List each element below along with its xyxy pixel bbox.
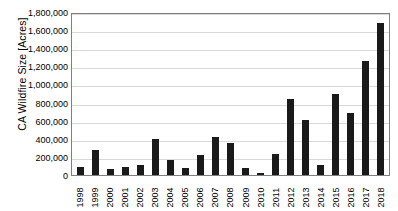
bar-slot [268,14,283,175]
x-tick-slot: 2002 [132,177,147,211]
x-axis-tick-labels: 1998199920002001200220032004200520062007… [71,177,390,211]
bar[interactable] [302,120,310,175]
bar[interactable] [152,139,160,175]
bar[interactable] [272,154,280,175]
x-tick-slot: 2008 [223,177,238,211]
x-tick-label: 2011 [271,188,280,207]
x-tick-slot: 2014 [314,177,329,211]
bar[interactable] [212,137,220,175]
bar[interactable] [332,94,340,175]
x-tick-label: 2003 [151,187,160,207]
x-tick-label: 2015 [332,187,341,207]
x-tick-label: 2002 [135,187,144,207]
bar-slot [208,14,223,175]
x-tick-slot: 2017 [359,177,374,211]
x-tick-slot: 2009 [238,177,253,211]
wildfire-bar-chart: CA Wildfire Size [Acres] 1,800,0001,600,… [0,0,398,211]
x-tick-label: 2013 [301,187,310,207]
x-tick-label: 2000 [105,187,114,207]
bar-slot [238,14,253,175]
x-tick-slot: 2018 [374,177,389,211]
bar[interactable] [137,165,145,175]
bar-slot [313,14,328,175]
bar[interactable] [317,165,325,175]
y-tick-label: 800,000 [14,99,68,108]
bar[interactable] [377,23,385,175]
x-tick-slot: 2004 [163,177,178,211]
bar-slot [298,14,313,175]
bar[interactable] [362,61,370,175]
x-tick-slot: 2012 [283,177,298,211]
x-tick-label: 2017 [362,187,371,207]
y-tick-label: 1,000,000 [14,81,68,90]
x-tick-label: 2012 [286,187,295,207]
bar-slot [283,14,298,175]
x-tick-label: 2018 [377,187,386,207]
bar-slot [223,14,238,175]
bar[interactable] [227,143,235,175]
x-tick-label: 2001 [120,187,129,207]
x-tick-slot: 2005 [178,177,193,211]
y-axis-tick-labels: 1,800,0001,600,0001,400,0001,200,0001,00… [14,13,68,176]
x-tick-label: 2009 [241,187,250,207]
bar[interactable] [167,160,175,175]
x-tick-label: 1998 [75,187,84,207]
bar-slot [88,14,103,175]
x-tick-label: 2014 [317,187,326,207]
x-tick-label: 2004 [166,187,175,207]
x-tick-label: 2006 [196,187,205,207]
bar[interactable] [182,168,190,175]
bar-slot [103,14,118,175]
x-tick-slot: 2006 [193,177,208,211]
x-tick-label: 1999 [90,187,99,207]
x-tick-slot: 2001 [117,177,132,211]
x-tick-slot: 2003 [147,177,162,211]
x-tick-slot: 2011 [268,177,283,211]
x-tick-label: 2010 [256,187,265,207]
plot-area [71,13,390,176]
x-tick-slot: 2016 [344,177,359,211]
y-tick-label: 1,200,000 [14,63,68,72]
bar-slot [358,14,373,175]
bar[interactable] [347,113,355,175]
bars-series [72,14,389,175]
y-tick-label: 600,000 [14,117,68,126]
bar-slot [178,14,193,175]
bar[interactable] [77,167,85,175]
x-tick-slot: 2007 [208,177,223,211]
bar-slot [133,14,148,175]
bar[interactable] [197,155,205,175]
bar-slot [73,14,88,175]
x-tick-slot: 2000 [102,177,117,211]
y-tick-label: 0 [14,172,68,181]
y-tick-label: 1,400,000 [14,45,68,54]
x-tick-label: 2005 [181,187,190,207]
bar-slot [118,14,133,175]
y-tick-label: 1,800,000 [14,9,68,18]
bar-slot [253,14,268,175]
x-tick-slot: 1999 [87,177,102,211]
x-tick-label: 2008 [226,187,235,207]
bar[interactable] [122,167,130,175]
y-tick-label: 400,000 [14,135,68,144]
bar-slot [343,14,358,175]
x-tick-slot: 2010 [253,177,268,211]
bar-slot [148,14,163,175]
bar-slot [163,14,178,175]
bar[interactable] [92,150,100,175]
bar[interactable] [242,168,250,175]
x-tick-slot: 2013 [298,177,313,211]
bar-slot [193,14,208,175]
x-tick-label: 2007 [211,187,220,207]
x-tick-slot: 2015 [329,177,344,211]
bar-slot [373,14,388,175]
bar[interactable] [257,173,265,175]
y-tick-label: 200,000 [14,153,68,162]
bar[interactable] [287,99,295,175]
x-tick-label: 2016 [347,187,356,207]
bar[interactable] [107,169,115,175]
y-tick-label: 1,600,000 [14,27,68,36]
bar-slot [328,14,343,175]
x-tick-slot: 1998 [72,177,87,211]
